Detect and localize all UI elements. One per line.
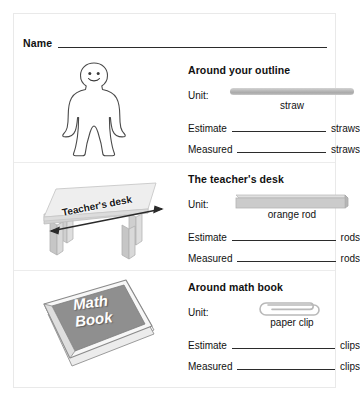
estimate-unit: rods bbox=[341, 232, 360, 243]
measured-unit: rods bbox=[341, 253, 360, 264]
fields-around-your-outline: Around your outline Unit: straw Estimate… bbox=[176, 54, 329, 162]
section-around-math-book: Math Book Around math book Unit: paper c… bbox=[14, 270, 335, 378]
measured-input-blank[interactable] bbox=[237, 359, 335, 370]
measured-label: Measured bbox=[188, 144, 232, 155]
unit-row: Unit: straw bbox=[188, 85, 358, 115]
fields-teachers-desk: The teacher's desk Unit: orange rod Esti… bbox=[176, 163, 329, 271]
unit-label: Unit: bbox=[188, 199, 209, 210]
eye-right-icon bbox=[97, 72, 100, 75]
measured-input-blank[interactable] bbox=[237, 251, 335, 262]
name-label: Name bbox=[23, 37, 52, 50]
estimate-row: Estimate clips bbox=[188, 338, 360, 352]
estimate-input-blank[interactable] bbox=[232, 338, 335, 349]
illustration-math-book: Math Book bbox=[14, 271, 174, 379]
unit-row: Unit: orange rod bbox=[188, 194, 358, 224]
unit-caption: straw bbox=[228, 100, 356, 111]
unit-label: Unit: bbox=[188, 307, 209, 318]
section-around-your-outline: Around your outline Unit: straw Estimate… bbox=[14, 54, 335, 162]
illustration-teachers-desk: Teacher's desk bbox=[14, 163, 174, 271]
unit-caption: paper clip bbox=[228, 317, 356, 328]
section-teachers-desk: Teacher's desk The teacher's desk Unit: … bbox=[14, 162, 335, 270]
estimate-label: Estimate bbox=[188, 340, 227, 351]
estimate-row: Estimate rods bbox=[188, 230, 360, 244]
person-outline-figure bbox=[58, 58, 130, 158]
worksheet-page: Name Around your outline Unit: st bbox=[13, 13, 336, 388]
paper-clip-icon bbox=[228, 302, 356, 318]
estimate-unit: clips bbox=[340, 340, 360, 351]
unit-caption: orange rod bbox=[228, 209, 356, 220]
orange-rod-icon bbox=[228, 194, 356, 210]
measured-unit: clips bbox=[340, 361, 360, 372]
measured-label: Measured bbox=[188, 361, 232, 372]
unit-row: Unit: paper clip bbox=[188, 302, 358, 332]
eye-left-icon bbox=[88, 72, 91, 75]
fields-around-math-book: Around math book Unit: paper clip Estima… bbox=[176, 271, 329, 379]
estimate-label: Estimate bbox=[188, 123, 227, 134]
estimate-row: Estimate straws bbox=[188, 121, 360, 135]
section-title: Around your outline bbox=[188, 64, 290, 76]
teachers-desk-figure: Teacher's desk bbox=[26, 169, 168, 265]
estimate-unit: straws bbox=[331, 123, 360, 134]
measured-row: Measured straws bbox=[188, 142, 360, 156]
math-book-figure: Math Book bbox=[36, 274, 160, 374]
measured-row: Measured rods bbox=[188, 251, 360, 265]
measured-input-blank[interactable] bbox=[237, 142, 326, 153]
section-title: The teacher's desk bbox=[188, 173, 284, 185]
estimate-input-blank[interactable] bbox=[232, 230, 336, 241]
measured-unit: straws bbox=[331, 144, 360, 155]
person-outline-icon bbox=[58, 58, 130, 158]
illustration-person-outline bbox=[14, 54, 174, 162]
name-input-rule[interactable] bbox=[58, 46, 327, 48]
name-field-row: Name bbox=[23, 28, 327, 50]
straw-icon bbox=[228, 85, 356, 101]
desk-icon bbox=[26, 169, 168, 265]
unit-label: Unit: bbox=[188, 90, 209, 101]
section-title: Around math book bbox=[188, 281, 283, 293]
measured-row: Measured clips bbox=[188, 359, 360, 373]
estimate-input-blank[interactable] bbox=[232, 121, 326, 132]
estimate-label: Estimate bbox=[188, 232, 227, 243]
measured-label: Measured bbox=[188, 253, 232, 264]
